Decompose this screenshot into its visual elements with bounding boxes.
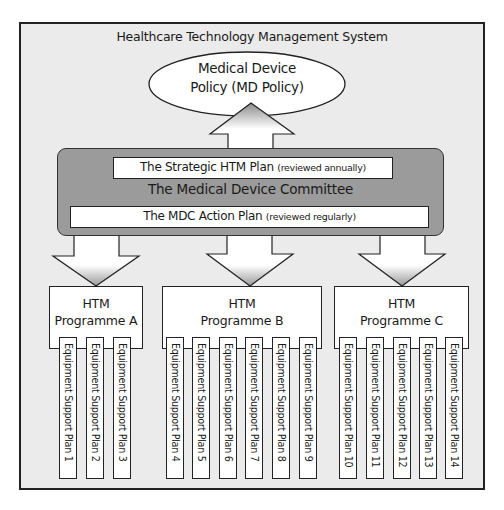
programme-a-line1: HTM <box>50 295 142 312</box>
down-arrow-b <box>207 234 293 286</box>
action-plan-box: The MDC Action Plan (reviewed regularly) <box>70 206 429 228</box>
support-plan-label: Equipment Support Plan 11 <box>369 343 381 467</box>
support-plan-11: Equipment Support Plan 11 <box>366 337 384 479</box>
support-plan-13: Equipment Support Plan 13 <box>419 337 437 479</box>
support-plan-label: Equipment Support Plan 7 <box>248 343 260 461</box>
strategic-plan-note: (reviewed annually) <box>277 162 366 173</box>
support-plan-label: Equipment Support Plan 2 <box>89 343 101 461</box>
support-plan-3: Equipment Support Plan 3 <box>113 337 131 479</box>
down-arrow-a <box>53 234 139 286</box>
down-arrow-c <box>359 234 445 286</box>
support-plan-5: Equipment Support Plan 5 <box>192 337 210 479</box>
programme-c-line2: Programme C <box>335 312 468 329</box>
strategic-plan-label: The Strategic HTM Plan <box>140 160 274 174</box>
programme-b: HTM Programme B <box>162 286 322 349</box>
support-plan-4: Equipment Support Plan 4 <box>166 337 184 479</box>
policy-label: Medical Device Policy (MD Policy) <box>149 59 345 97</box>
support-plan-label: Equipment Support Plan 8 <box>275 343 287 461</box>
committee-label: The Medical Device Committee <box>57 181 444 197</box>
support-plan-8: Equipment Support Plan 8 <box>272 337 290 479</box>
support-plan-2: Equipment Support Plan 2 <box>86 337 104 479</box>
support-plan-label: Equipment Support Plan 14 <box>448 343 460 467</box>
support-plan-10: Equipment Support Plan 10 <box>339 337 357 479</box>
action-plan-label: The MDC Action Plan <box>143 209 262 223</box>
support-plan-14: Equipment Support Plan 14 <box>445 337 463 479</box>
programme-b-line1: HTM <box>163 295 321 312</box>
programme-b-line2: Programme B <box>163 312 321 329</box>
support-plan-label: Equipment Support Plan 6 <box>222 343 234 461</box>
support-plan-12: Equipment Support Plan 12 <box>393 337 411 479</box>
support-plan-label: Equipment Support Plan 5 <box>195 343 207 461</box>
support-plan-label: Equipment Support Plan 4 <box>169 343 181 461</box>
policy-line2: Policy (MD Policy) <box>149 78 345 97</box>
support-plan-label: Equipment Support Plan 13 <box>422 343 434 467</box>
support-plan-label: Equipment Support Plan 9 <box>302 343 314 461</box>
support-plan-6: Equipment Support Plan 6 <box>219 337 237 479</box>
action-plan-note: (reviewed regularly) <box>266 211 356 222</box>
strategic-plan-box: The Strategic HTM Plan (reviewed annuall… <box>113 157 393 179</box>
programme-a-line2: Programme A <box>50 312 142 329</box>
support-plan-1: Equipment Support Plan 1 <box>59 337 77 479</box>
policy-line1: Medical Device <box>149 59 345 78</box>
support-plan-9: Equipment Support Plan 9 <box>299 337 317 479</box>
support-plan-label: Equipment Support Plan 3 <box>116 343 128 461</box>
support-plan-7: Equipment Support Plan 7 <box>245 337 263 479</box>
support-plan-label: Equipment Support Plan 10 <box>342 343 354 467</box>
support-plan-label: Equipment Support Plan 1 <box>62 343 74 461</box>
support-plan-label: Equipment Support Plan 12 <box>396 343 408 467</box>
programme-c-line1: HTM <box>335 295 468 312</box>
